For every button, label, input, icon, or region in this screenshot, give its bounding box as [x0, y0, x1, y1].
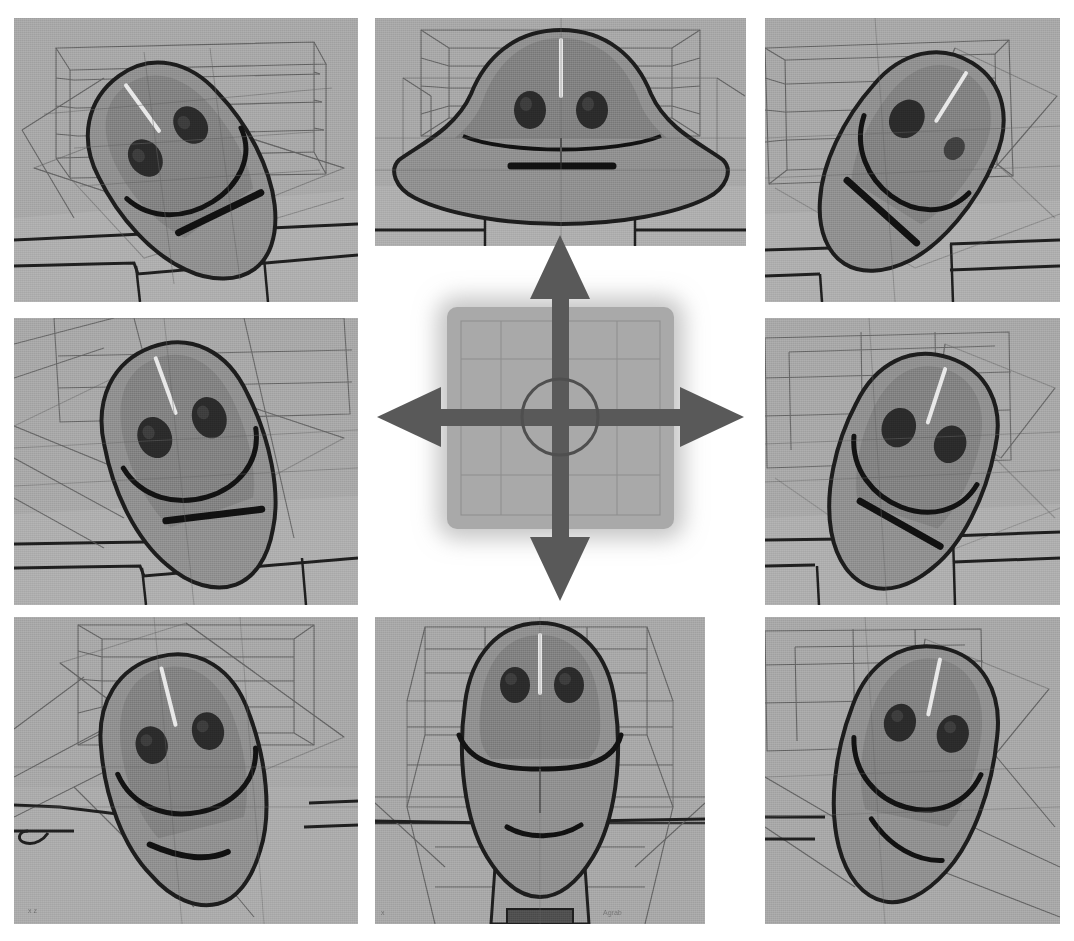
viewpoint-panel-top-center[interactable]	[375, 18, 746, 246]
arrow-right-icon	[561, 387, 744, 447]
viewpoint-panel-bottom-left[interactable]: x z	[14, 617, 358, 924]
viewpoint-panel-top-right[interactable]	[765, 18, 1060, 302]
pad-arrow-layer	[327, 217, 794, 619]
render-bottom-center: x Agrab	[375, 617, 705, 924]
directional-pad[interactable]	[447, 307, 674, 529]
viewpoint-panel-middle-left[interactable]	[14, 318, 358, 605]
render-top-right	[765, 18, 1060, 302]
arrow-down-icon	[530, 418, 590, 601]
viewpoint-panel-bottom-right[interactable]	[765, 617, 1060, 924]
render-middle-right	[765, 318, 1060, 605]
render-middle-left	[14, 318, 358, 605]
viewpoint-panel-bottom-center[interactable]: x Agrab	[375, 617, 705, 924]
panel-overlay-text-bottom-center-left: x	[381, 909, 385, 916]
panel-overlay-text-bottom-center-right: Agrab	[603, 909, 622, 917]
panel-overlay-text-bottom-left: x z	[28, 907, 37, 914]
render-top-center	[375, 18, 746, 246]
render-bottom-left: x z	[14, 617, 358, 924]
viewpoint-panel-top-left[interactable]	[14, 18, 358, 302]
render-bottom-right	[765, 617, 1060, 924]
render-top-left	[14, 18, 358, 302]
figure-stage: x z	[0, 0, 1074, 941]
arrow-left-icon	[377, 387, 560, 447]
arrow-up-icon	[530, 235, 590, 418]
direction-arrows	[377, 235, 744, 601]
viewpoint-panel-middle-right[interactable]	[765, 318, 1060, 605]
